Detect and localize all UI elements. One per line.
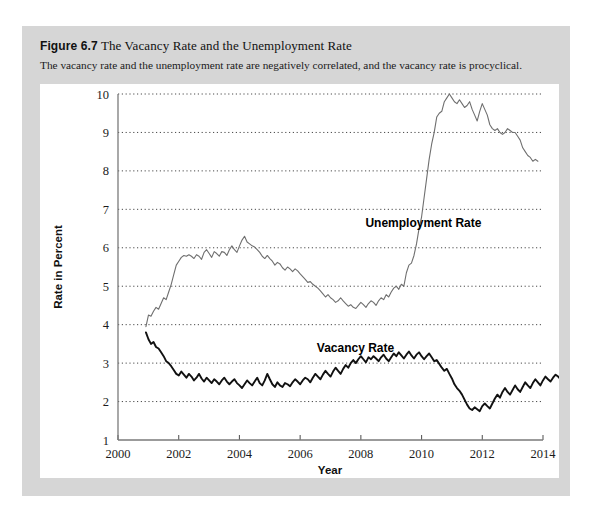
x-tick-label: 2000: [106, 447, 131, 461]
y-axis-title: Rate in Percent: [52, 225, 64, 309]
series-labels: Unemployment RateVacancy Rate: [317, 216, 482, 356]
y-tick-label: 2: [103, 395, 109, 409]
x-tick-label: 2010: [409, 447, 434, 461]
y-tick-label: 8: [103, 164, 109, 178]
figure-title-text: The Vacancy Rate and the Unemployment Ra…: [101, 38, 352, 53]
line-chart: 12345678910 2000200220042006200820102012…: [40, 84, 559, 478]
x-axis-title: Year: [318, 464, 343, 476]
plot-area: 12345678910 2000200220042006200820102012…: [40, 84, 559, 478]
x-tick-label: 2002: [166, 447, 191, 461]
series-line-unemployment-rate: [146, 94, 538, 327]
y-tick-label: 3: [103, 357, 109, 371]
y-tick-label: 6: [103, 241, 109, 255]
figure-title: Figure 6.7 The Vacancy Rate and the Unem…: [40, 38, 556, 54]
x-tick-label: 2008: [348, 447, 373, 461]
x-tick-label: 2012: [470, 447, 495, 461]
y-tick-label: 7: [103, 203, 109, 217]
gridlines: [118, 94, 543, 402]
y-tick-label: 1: [103, 434, 109, 448]
y-tick-label: 9: [103, 126, 109, 140]
figure-panel: Figure 6.7 The Vacancy Rate and the Unem…: [22, 26, 570, 496]
series-label-vacancy-rate: Vacancy Rate: [317, 341, 395, 355]
y-tick-label: 4: [103, 318, 110, 332]
y-tick-label: 10: [97, 88, 110, 102]
y-axis-ticks: 12345678910: [97, 88, 110, 448]
x-tick-label: 2004: [227, 447, 253, 461]
data-series: [146, 94, 559, 411]
figure-subtitle: The vacancy rate and the unemployment ra…: [40, 59, 556, 71]
y-tick-label: 5: [103, 280, 109, 294]
series-label-unemployment-rate: Unemployment Rate: [365, 216, 481, 230]
figure-header: Figure 6.7 The Vacancy Rate and the Unem…: [40, 38, 556, 71]
x-tick-label: 2006: [288, 447, 313, 461]
x-tick-label: 2014: [531, 447, 557, 461]
figure-number: Figure 6.7: [40, 39, 98, 53]
x-axis-ticks: 20002002200420062008201020122014: [106, 435, 557, 461]
